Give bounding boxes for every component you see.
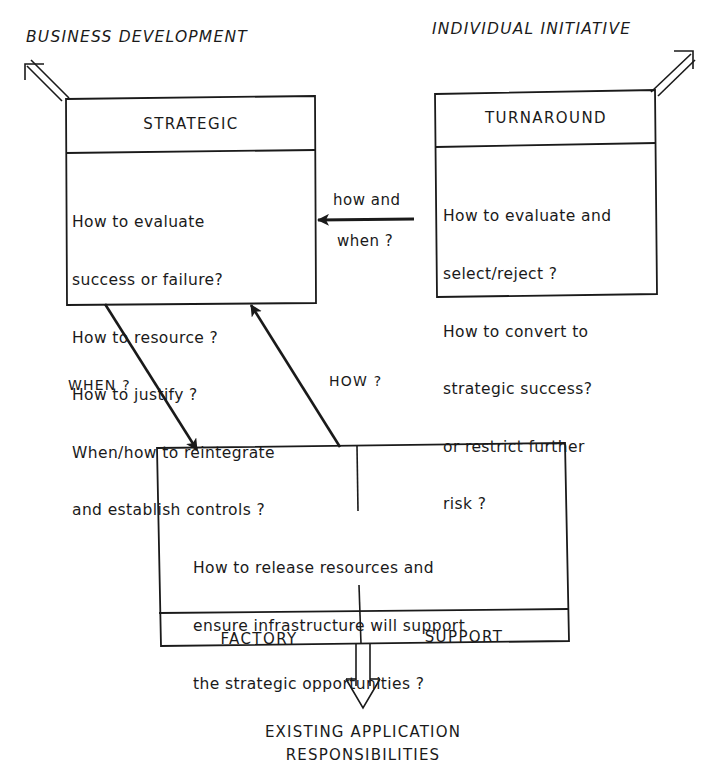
turnaround-line: strategic success?	[443, 380, 611, 399]
turnaround-line: or restrict further	[443, 438, 611, 457]
when-connector-label: WHEN ?	[68, 378, 131, 392]
individual-initiative-arrow-icon	[651, 51, 695, 96]
operations-line: the strategic opportunities ?	[193, 675, 465, 694]
operations-line: How to release resources and	[193, 559, 465, 578]
turnaround-line: select/reject ?	[443, 265, 611, 284]
strategic-line: success or failure?	[72, 271, 275, 290]
turnaround-box-title: TURNAROUND	[436, 111, 656, 126]
strategic-line: When/how to reintegrate	[72, 444, 275, 463]
strategic-header-divider	[66, 150, 315, 153]
turnaround-line: How to convert to	[443, 323, 611, 342]
business-development-arrow-icon	[25, 60, 69, 101]
business-development-label: BUSINESS DEVELOPMENT	[26, 30, 248, 46]
turnaround-line: risk ?	[443, 495, 611, 514]
factory-label: FACTORY	[160, 632, 358, 647]
turnaround-header-divider	[436, 143, 656, 147]
turnaround-line: How to evaluate and	[443, 207, 611, 226]
how-and-label: how and	[333, 193, 400, 208]
turnaround-to-strategic-arrow-icon	[318, 219, 414, 220]
support-label: SUPPORT	[360, 630, 568, 645]
how-connector-label: HOW ?	[329, 374, 382, 388]
operations-box-body: How to release resources and ensure infr…	[193, 521, 465, 713]
operations-vertical-divider-top	[357, 446, 358, 511]
strategic-line: How to evaluate	[72, 213, 275, 232]
responsibilities-label: RESPONSIBILITIES	[213, 748, 513, 763]
strategic-box-title: STRATEGIC	[66, 117, 316, 132]
turnaround-box-body: How to evaluate and select/reject ? How …	[443, 169, 611, 534]
when-question-label: when ?	[337, 234, 393, 249]
individual-initiative-label: INDIVIDUAL INITIATIVE	[432, 22, 631, 38]
existing-application-label: EXISTING APPLICATION	[213, 725, 513, 740]
strategic-line: and establish controls ?	[72, 501, 275, 520]
strategic-box-body: How to evaluate success or failure? How …	[72, 175, 275, 540]
strategic-line: How to resource ?	[72, 329, 275, 348]
